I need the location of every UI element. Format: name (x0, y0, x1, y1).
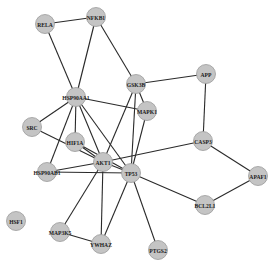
node-label: APAF1 (249, 174, 266, 180)
node-apaf1[interactable]: APAF1 (249, 167, 268, 186)
node-hsf1[interactable]: HSF1 (7, 212, 26, 231)
node-label: SRC (26, 125, 37, 131)
edges-layer (32, 17, 258, 250)
node-label: APP (201, 72, 212, 78)
node-ywhaz[interactable]: YWHAZ (90, 235, 112, 254)
edge-tp53-ywhaz (101, 173, 131, 244)
edge-gsk3b-akt1 (103, 84, 136, 162)
edge-gsk3b-tp53 (131, 84, 136, 173)
edge-rela-hsp90aa1 (45, 24, 76, 97)
node-label: HIF1A (67, 140, 84, 146)
node-akt1[interactable]: AKT1 (94, 153, 113, 172)
node-label: PTGS2 (149, 248, 167, 254)
node-label: MAPK1 (137, 109, 157, 115)
network-diagram: RELANFKB1HSP90AA1GSK3BAPPMAPK1SRCHIF1AAK… (0, 0, 279, 268)
node-label: CASP3 (194, 139, 212, 145)
node-label: RELA (37, 22, 53, 28)
node-hif1a[interactable]: HIF1A (66, 133, 85, 152)
node-label: YWHAZ (90, 242, 112, 248)
edge-tp53-ptgs2 (131, 173, 158, 250)
node-rela[interactable]: RELA (36, 15, 55, 34)
node-ptgs2[interactable]: PTGS2 (149, 241, 168, 260)
node-bcl2l1[interactable]: BCL2L1 (195, 196, 216, 215)
node-mapk1[interactable]: MAPK1 (137, 102, 157, 121)
node-label: HSP90AB1 (33, 170, 60, 176)
node-label: HSP90AA1 (62, 95, 90, 101)
node-hsp90ab1[interactable]: HSP90AB1 (33, 163, 60, 182)
node-src[interactable]: SRC (23, 118, 42, 137)
node-map3k5[interactable]: MAP3K5 (49, 223, 72, 242)
edge-akt1-casp3 (103, 141, 203, 162)
edge-nfkb1-gsk3b (96, 17, 136, 84)
node-gsk3b[interactable]: GSK3B (127, 75, 146, 94)
node-label: MAP3K5 (49, 230, 72, 236)
node-nfkb1[interactable]: NFKB1 (87, 8, 106, 27)
node-casp3[interactable]: CASP3 (194, 132, 213, 151)
edge-nfkb1-hsp90aa1 (76, 17, 96, 97)
node-tp53[interactable]: TP53 (122, 164, 141, 183)
edge-gsk3b-app (136, 74, 206, 84)
node-label: BCL2L1 (195, 203, 216, 209)
node-label: NFKB1 (87, 15, 106, 21)
edge-akt1-ywhaz (101, 162, 103, 244)
node-app[interactable]: APP (197, 65, 216, 84)
edge-tp53-bcl2l1 (131, 173, 205, 205)
node-label: AKT1 (96, 160, 111, 166)
node-label: HSF1 (9, 219, 23, 225)
node-label: GSK3B (127, 82, 146, 88)
edge-app-casp3 (203, 74, 206, 141)
node-label: TP53 (125, 171, 138, 177)
